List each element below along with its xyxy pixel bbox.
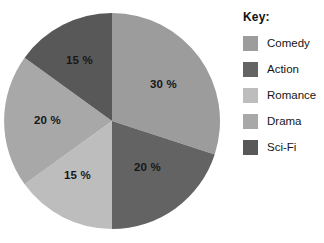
legend-swatch-drama xyxy=(243,114,258,129)
pie-chart-plot-area: 30 % 20 % 15 % 20 % 15 % xyxy=(4,6,221,239)
legend-label-scifi: Sci-Fi xyxy=(267,139,296,155)
legend-swatch-romance xyxy=(243,88,258,103)
legend-item-comedy[interactable]: Comedy xyxy=(243,35,324,51)
pie-chart-figure: 30 % 20 % 15 % 20 % 15 % Key: Comedy Act… xyxy=(0,0,324,243)
legend-swatch-action xyxy=(243,62,258,77)
pie-slice-label-drama: 20 % xyxy=(34,114,61,126)
legend-swatch-scifi xyxy=(243,140,258,155)
legend-swatch-comedy xyxy=(243,36,258,51)
legend: Key: Comedy Action Romance Drama Sci-Fi xyxy=(243,10,324,165)
legend-title: Key: xyxy=(243,10,324,24)
legend-label-action: Action xyxy=(267,61,299,77)
pie-slice-label-romance: 15 % xyxy=(64,169,91,181)
legend-item-drama[interactable]: Drama xyxy=(243,113,324,129)
legend-item-romance[interactable]: Romance xyxy=(243,87,324,103)
pie-slice-label-action: 20 % xyxy=(134,161,161,173)
legend-label-romance: Romance xyxy=(267,87,316,103)
legend-label-drama: Drama xyxy=(267,113,302,129)
legend-item-scifi[interactable]: Sci-Fi xyxy=(243,139,324,155)
legend-item-action[interactable]: Action xyxy=(243,61,324,77)
pie-slice-label-scifi: 15 % xyxy=(66,54,93,66)
legend-label-comedy: Comedy xyxy=(267,35,310,51)
pie-slice-label-comedy: 30 % xyxy=(150,78,177,90)
